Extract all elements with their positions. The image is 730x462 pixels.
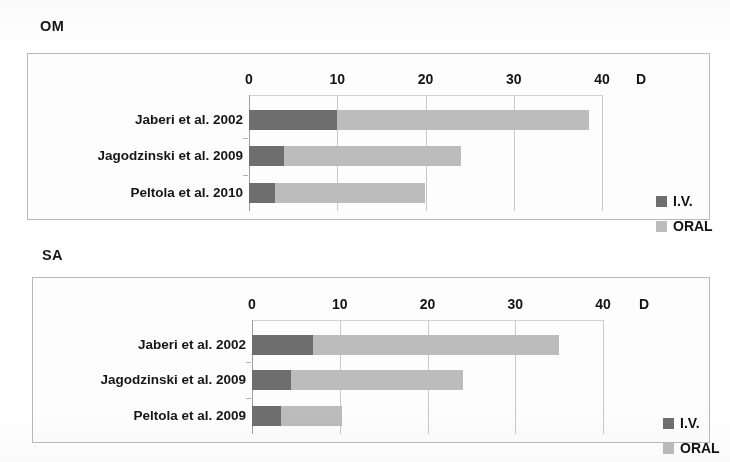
bar-segment-oral[interactable] [337, 110, 589, 130]
legend-label: I.V. [673, 194, 693, 208]
x-tick-label: 10 [329, 70, 345, 88]
bar-segment-iv[interactable] [249, 110, 337, 130]
category-axis-tick [243, 175, 248, 176]
bar-row[interactable] [249, 146, 461, 166]
x-axis-tick-labels-sa: 010203040 [252, 295, 603, 315]
x-tick-label: 10 [332, 295, 348, 313]
chart-frame-sa: 010203040 D Jaberi et al. 2002Jagodzinsk… [32, 277, 710, 443]
gridline [603, 320, 604, 434]
bar-row[interactable] [249, 110, 589, 130]
x-axis-tick-labels-om: 010203040 [249, 70, 602, 90]
bar-segment-oral[interactable] [275, 183, 425, 203]
bar-row[interactable] [252, 406, 342, 426]
gridline [602, 95, 603, 211]
x-tick-label: 30 [507, 295, 523, 313]
category-label: Jagodzinski et al. 2009 [97, 149, 243, 164]
category-label: Jaberi et al. 2002 [138, 337, 246, 352]
plot-area-sa [252, 320, 603, 434]
legend-label: I.V. [680, 416, 700, 430]
bar-segment-oral[interactable] [313, 335, 559, 355]
x-axis-unit-label-om: D [636, 70, 646, 88]
bar-segment-oral[interactable] [291, 370, 462, 390]
panel-title-om: OM [40, 19, 64, 34]
plot-area-om [249, 95, 602, 211]
figure-root: OM 010203040 D Jaberi et al. 2002Jagodzi… [0, 0, 730, 462]
x-tick-label: 0 [245, 70, 253, 88]
bar-row[interactable] [252, 335, 559, 355]
x-tick-label: 20 [418, 70, 434, 88]
x-tick-label: 40 [595, 295, 611, 313]
category-axis-tick [246, 362, 251, 363]
bar-segment-iv[interactable] [252, 370, 291, 390]
bar-segment-iv[interactable] [252, 406, 281, 426]
x-tick-label: 30 [506, 70, 522, 88]
panel-title-sa: SA [42, 248, 63, 263]
panel-om: OM 010203040 D Jaberi et al. 2002Jagodzi… [0, 0, 730, 231]
legend-swatch-icon [656, 196, 667, 207]
bar-segment-oral[interactable] [281, 406, 342, 426]
category-axis-tick [243, 138, 248, 139]
category-label: Peltola et al. 2009 [133, 409, 246, 424]
legend-swatch-icon [663, 443, 674, 454]
chart-frame-om: 010203040 D Jaberi et al. 2002Jagodzinsk… [27, 53, 710, 220]
category-label: Jaberi et al. 2002 [135, 113, 243, 128]
x-tick-label: 40 [594, 70, 610, 88]
x-tick-label: 20 [420, 295, 436, 313]
category-label: Peltola et al. 2010 [130, 186, 243, 201]
bar-segment-iv[interactable] [249, 183, 275, 203]
legend-swatch-icon [663, 418, 674, 429]
category-axis-tick [246, 398, 251, 399]
legend-item[interactable]: I.V. [663, 416, 720, 430]
legend-swatch-icon [656, 221, 667, 232]
category-axis-sa: Jaberi et al. 2002Jagodzinski et al. 200… [65, 320, 246, 434]
category-label: Jagodzinski et al. 2009 [100, 373, 246, 388]
legend-item[interactable]: I.V. [656, 194, 713, 208]
bar-segment-iv[interactable] [249, 146, 284, 166]
legend-sa: I.V.ORAL [663, 416, 720, 462]
legend-label: ORAL [680, 441, 720, 455]
x-tick-label: 0 [248, 295, 256, 313]
x-axis-unit-label-sa: D [639, 295, 649, 313]
bar-row[interactable] [252, 370, 463, 390]
legend-item[interactable]: ORAL [663, 441, 720, 455]
bar-segment-iv[interactable] [252, 335, 313, 355]
bar-segment-oral[interactable] [284, 146, 461, 166]
bar-row[interactable] [249, 183, 425, 203]
panel-sa: SA 010203040 D Jaberi et al. 2002Jagodzi… [0, 231, 730, 462]
category-axis-om: Jaberi et al. 2002Jagodzinski et al. 200… [58, 95, 243, 211]
